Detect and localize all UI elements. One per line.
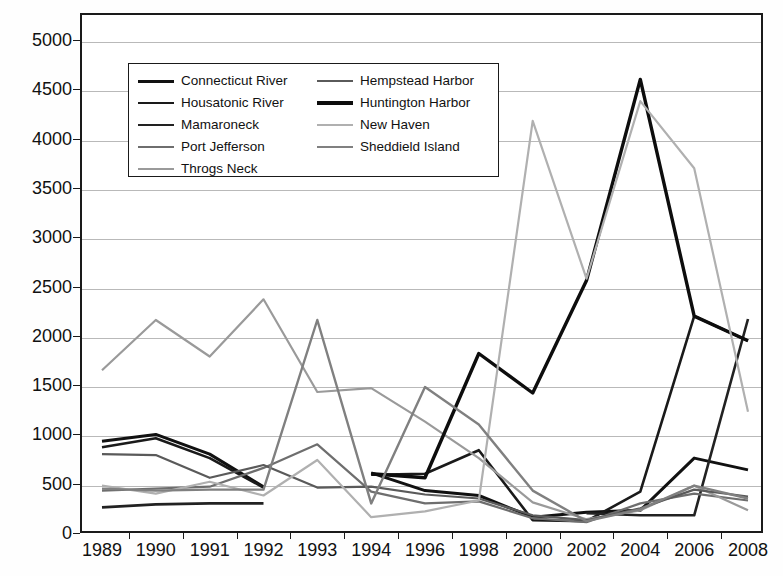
legend-item[interactable]: Connecticut River xyxy=(138,71,307,91)
legend-label: Mamaroneck xyxy=(181,118,259,132)
y-tick-mark xyxy=(73,484,80,485)
x-tick-label: 2000 xyxy=(513,540,553,561)
x-tick-mark xyxy=(721,533,722,539)
y-tick-mark xyxy=(73,89,80,90)
gridline xyxy=(82,190,761,191)
legend-line-swatch xyxy=(138,80,174,83)
y-tick-label: 1500 xyxy=(32,375,72,396)
legend-item[interactable]: Port Jefferson xyxy=(138,137,307,157)
legend-column: Hempstead HarborHuntington HarborNew Hav… xyxy=(317,71,489,179)
legend-line-swatch xyxy=(317,80,353,82)
legend-label: Sheddield Island xyxy=(360,140,460,154)
y-tick-label: 5000 xyxy=(32,30,72,51)
x-tick-label: 1991 xyxy=(190,540,230,561)
legend-item[interactable]: Throgs Neck xyxy=(138,159,307,179)
legend-label: Throgs Neck xyxy=(181,162,258,176)
legend-item[interactable]: Housatonic River xyxy=(138,93,307,113)
gridline xyxy=(82,289,761,290)
legend-item[interactable]: Sheddield Island xyxy=(317,137,489,157)
legend-column: Connecticut RiverHousatonic RiverMamaron… xyxy=(138,71,307,179)
x-tick-mark xyxy=(344,533,345,539)
y-tick-label: 4000 xyxy=(32,128,72,149)
x-tick-mark xyxy=(290,533,291,539)
legend-line-swatch xyxy=(138,124,174,127)
legend-item[interactable]: Huntington Harbor xyxy=(317,93,489,113)
y-tick-mark xyxy=(73,533,80,534)
x-tick-label: 1998 xyxy=(459,540,499,561)
gridline xyxy=(82,338,761,339)
legend-line-swatch xyxy=(138,102,174,105)
legend-label: Hempstead Harbor xyxy=(360,74,474,88)
y-tick-mark xyxy=(73,237,80,238)
x-tick-mark xyxy=(560,533,561,539)
x-tick-label: 2008 xyxy=(728,540,768,561)
x-tick-mark xyxy=(452,533,453,539)
y-tick-label: 0 xyxy=(62,523,72,544)
legend-line-swatch xyxy=(138,168,174,170)
y-tick-mark xyxy=(73,336,80,337)
y-tick-mark xyxy=(73,434,80,435)
gridline xyxy=(82,436,761,437)
line-chart: 0500100015002000250030003500400045005000… xyxy=(0,0,783,576)
legend-line-swatch xyxy=(317,124,353,126)
y-tick-mark xyxy=(73,139,80,140)
gridline xyxy=(82,486,761,487)
y-tick-label: 2500 xyxy=(32,276,72,297)
legend-label: Connecticut River xyxy=(181,74,288,88)
legend-label: New Haven xyxy=(360,118,430,132)
x-tick-mark xyxy=(506,533,507,539)
x-tick-label: 1996 xyxy=(405,540,445,561)
legend-line-swatch xyxy=(317,101,353,104)
x-tick-label: 2004 xyxy=(620,540,660,561)
x-tick-label: 1992 xyxy=(243,540,283,561)
y-tick-mark xyxy=(73,287,80,288)
y-tick-label: 1000 xyxy=(32,424,72,445)
x-tick-label: 2006 xyxy=(674,540,714,561)
x-tick-label: 1994 xyxy=(351,540,391,561)
legend-label: Housatonic River xyxy=(181,96,284,110)
y-tick-mark xyxy=(73,385,80,386)
y-tick-label: 3000 xyxy=(32,227,72,248)
legend-item[interactable]: Hempstead Harbor xyxy=(317,71,489,91)
legend-item[interactable]: New Haven xyxy=(317,115,489,135)
x-tick-label: 1993 xyxy=(297,540,337,561)
legend: Connecticut RiverHousatonic RiverMamaron… xyxy=(128,63,499,177)
x-tick-label: 2002 xyxy=(566,540,606,561)
gridline xyxy=(82,239,761,240)
x-tick-mark xyxy=(183,533,184,539)
legend-label: Huntington Harbor xyxy=(360,96,470,110)
y-tick-mark xyxy=(73,40,80,41)
legend-label: Port Jefferson xyxy=(181,140,265,154)
y-axis: 0500100015002000250030003500400045005000 xyxy=(0,0,72,576)
gridline xyxy=(82,42,761,43)
x-tick-label: 1990 xyxy=(136,540,176,561)
x-tick-mark xyxy=(613,533,614,539)
legend-line-swatch xyxy=(317,146,353,148)
x-tick-mark xyxy=(237,533,238,539)
x-tick-label: 1989 xyxy=(82,540,122,561)
gridline xyxy=(82,387,761,388)
y-tick-label: 2000 xyxy=(32,325,72,346)
y-tick-label: 3500 xyxy=(32,177,72,198)
y-tick-label: 4500 xyxy=(32,79,72,100)
x-tick-mark xyxy=(398,533,399,539)
x-tick-mark xyxy=(667,533,668,539)
x-tick-mark xyxy=(129,533,130,539)
legend-line-swatch xyxy=(138,146,174,148)
y-tick-label: 500 xyxy=(42,473,72,494)
legend-item[interactable]: Mamaroneck xyxy=(138,115,307,135)
y-tick-mark xyxy=(73,188,80,189)
